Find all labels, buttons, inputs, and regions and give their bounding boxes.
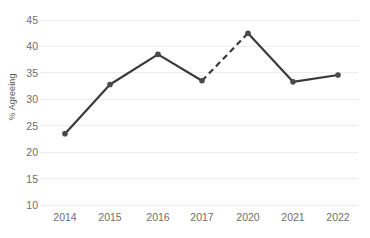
- x-axis-tick-label: 2017: [179, 212, 225, 223]
- data-point-marker: [62, 131, 68, 137]
- data-point-marker: [290, 79, 296, 85]
- y-axis-tick-label: 20: [12, 147, 38, 157]
- series-segment-dashed: [202, 33, 248, 81]
- x-axis-tick-label: 2022: [315, 212, 361, 223]
- y-axis-tick-label: 15: [12, 174, 38, 184]
- series-segment: [293, 75, 338, 82]
- x-axis-tick-label: 2016: [135, 212, 181, 223]
- y-axis-tick-label: 40: [12, 41, 38, 51]
- data-point-marker: [155, 52, 161, 58]
- data-point-marker: [245, 30, 251, 36]
- y-axis-tick-labels: 4540353025201510: [0, 0, 38, 238]
- y-axis-tick-label: 35: [12, 68, 38, 78]
- y-axis-tick-label: 45: [12, 15, 38, 25]
- data-point-marker: [335, 72, 341, 78]
- series-segment: [158, 54, 202, 80]
- series-segment: [65, 84, 110, 133]
- y-axis-tick-label: 30: [12, 94, 38, 104]
- gridlines: [40, 20, 358, 205]
- series-segment: [248, 33, 293, 82]
- data-point-marker: [107, 82, 113, 88]
- line-chart: % Agreeing 4540353025201510 201420152016…: [0, 0, 370, 238]
- x-axis-tick-label: 2020: [225, 212, 271, 223]
- y-axis-tick-label: 25: [12, 121, 38, 131]
- chart-plot-area: [0, 0, 370, 238]
- x-axis-tick-label: 2021: [270, 212, 316, 223]
- y-axis-tick-label: 10: [12, 200, 38, 210]
- data-point-marker: [199, 78, 205, 84]
- series-segment: [110, 54, 158, 84]
- x-axis-tick-label: 2015: [87, 212, 133, 223]
- series-line-dashed: [202, 33, 248, 81]
- x-axis-tick-label: 2014: [42, 212, 88, 223]
